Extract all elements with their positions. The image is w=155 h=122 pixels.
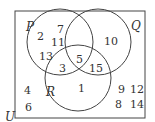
set-p-label: P [25,20,35,34]
set-r-label: R [45,85,55,99]
venn-diagram: P Q R U 2 7 11 13 10 5 3 15 1 4 6 9 12 8… [0,0,155,122]
element-7: 7 [57,23,64,36]
set-q-label: Q [131,19,141,33]
element-13: 13 [39,50,53,63]
element-3: 3 [59,62,66,75]
element-1: 1 [78,82,85,95]
element-8: 8 [115,98,122,111]
element-9: 9 [118,83,125,96]
element-15: 15 [89,62,103,75]
element-14: 14 [130,98,144,111]
element-10: 10 [104,35,118,48]
element-6: 6 [25,101,32,114]
universe-label: U [5,110,16,122]
element-4: 4 [24,84,31,97]
element-11: 11 [51,36,65,49]
element-12: 12 [130,83,144,96]
element-5: 5 [76,53,83,66]
element-2: 2 [37,30,44,43]
